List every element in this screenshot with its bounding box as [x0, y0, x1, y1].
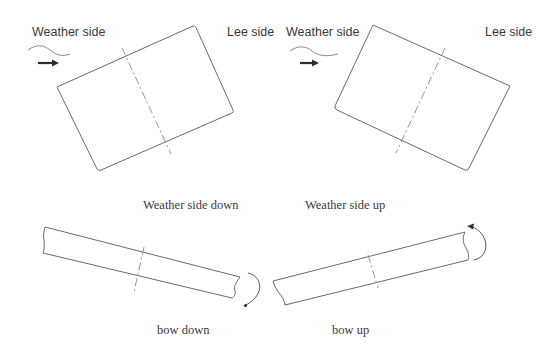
wind-arrow-icon — [38, 60, 59, 67]
panel-weather-side-up — [290, 25, 510, 170]
weather-side-label: Weather side — [286, 26, 359, 39]
panel-bow-down — [43, 227, 260, 307]
centerline-dashed — [122, 48, 171, 154]
centerline-dashed — [396, 48, 445, 153]
hull-beam — [43, 227, 240, 298]
hull-section-rectangle — [335, 25, 510, 170]
wave-icon — [290, 47, 338, 56]
weather-side-label: Weather side — [32, 26, 105, 39]
panel-bow-up — [273, 224, 486, 306]
panel-weather-side-down — [28, 26, 233, 170]
wave-icon — [28, 46, 70, 56]
centerline-dashed — [134, 247, 144, 292]
rotation-arrow-icon — [244, 273, 260, 307]
diagram-canvas — [0, 0, 559, 352]
caption-weather-side-up: Weather side up — [305, 199, 385, 212]
hull-beam — [273, 232, 469, 305]
rotation-arrow-icon — [467, 224, 486, 261]
lee-side-label: Lee side — [485, 26, 532, 39]
hull-tilt-diagram: Weather side Lee side Weather side Lee s… — [0, 0, 559, 352]
caption-weather-side-down: Weather side down — [143, 199, 239, 212]
caption-bow-up: bow up — [332, 324, 369, 337]
wind-arrow-icon — [300, 60, 319, 67]
caption-bow-down: bow down — [157, 324, 209, 337]
lee-side-label: Lee side — [227, 26, 274, 39]
